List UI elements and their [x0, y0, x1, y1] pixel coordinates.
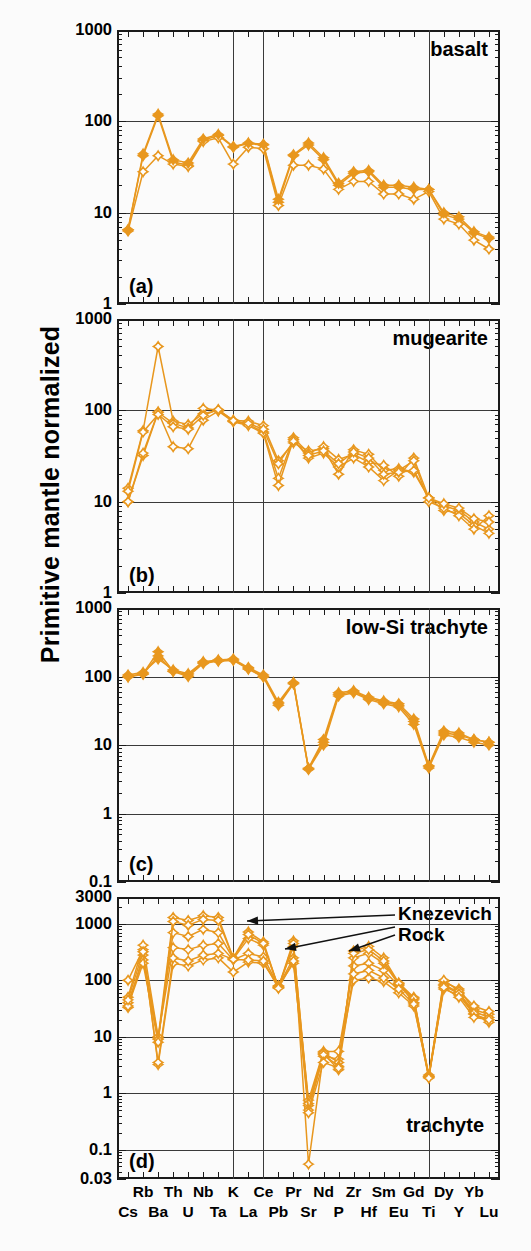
open-diamond-marker — [274, 481, 283, 490]
x-label-pr: Pr — [285, 1183, 301, 1201]
x-label-ba: Ba — [148, 1203, 168, 1221]
open-diamond-marker — [184, 444, 193, 453]
filled-diamond-marker — [123, 225, 132, 234]
y-major-tick — [117, 882, 126, 883]
y-tick-label: 3000 — [75, 887, 112, 906]
series-line — [128, 408, 489, 533]
x-label-ta: Ta — [210, 1203, 227, 1221]
series-line — [128, 138, 489, 249]
filled-diamond-marker — [304, 765, 313, 774]
y-tick-label: 10 — [94, 492, 112, 511]
x-label-u: U — [183, 1203, 194, 1221]
open-diamond-marker — [169, 442, 178, 451]
y-major-tick — [491, 882, 500, 883]
y-tick-label: 1000 — [75, 598, 112, 617]
x-label-ti: Ti — [422, 1203, 436, 1221]
series-line — [128, 659, 489, 768]
y-tick-label: 10 — [94, 1027, 112, 1046]
open-diamond-marker — [409, 195, 418, 204]
series-layer — [117, 319, 500, 593]
y-tick-label: 100 — [84, 400, 112, 419]
y-major-tick — [491, 593, 500, 594]
x-label-rb: Rb — [133, 1183, 154, 1201]
panel-c-low-si-trachyte: low-Si trachyte (c) 0.11101001000 — [117, 608, 500, 882]
panel-d-trachyte: trachyte (d) Knezevich Rock 0.030.111010… — [117, 897, 500, 1179]
series-layer — [117, 608, 500, 882]
x-label-zr: Zr — [346, 1183, 362, 1201]
x-label-sr: Sr — [300, 1203, 316, 1221]
y-major-tick — [117, 593, 126, 594]
annotation-arrows — [117, 897, 500, 1179]
y-tick-label: 1000 — [75, 20, 112, 39]
panel-a-basalt: basalt (a) 1101001000 — [117, 30, 500, 304]
annotation-arrow-head-1 — [247, 916, 258, 924]
open-diamond-marker — [484, 244, 493, 253]
x-label-y: Y — [454, 1203, 464, 1221]
spider-diagram-figure: Primitive mantle normalized basalt (a) 1… — [0, 0, 531, 1251]
open-diamond-marker — [154, 342, 163, 351]
y-tick-label: 0.1 — [89, 1140, 112, 1159]
open-diamond-marker — [123, 497, 132, 506]
series-line — [128, 114, 489, 237]
y-tick-label: 100 — [84, 970, 112, 989]
annotation-arrow-line-1 — [247, 915, 395, 921]
x-label-th: Th — [164, 1183, 183, 1201]
annotation-arrow-line-2 — [285, 927, 395, 949]
open-diamond-marker — [304, 161, 313, 170]
x-label-pb: Pb — [269, 1203, 289, 1221]
annotation-arrow-head-2 — [285, 943, 297, 951]
x-label-nb: Nb — [193, 1183, 214, 1201]
x-label-k: K — [228, 1183, 239, 1201]
y-tick-label: 10 — [94, 203, 112, 222]
y-tick-label: 10 — [94, 735, 112, 754]
y-tick-label: 1 — [103, 1083, 112, 1102]
y-tick-label: 1000 — [75, 309, 112, 328]
x-axis-element-labels: CsRbBaThUNbTaKLaCePbPrSrNdPZrHfSmEuGdTiD… — [0, 1183, 531, 1233]
y-axis-title: Primitive mantle normalized — [36, 255, 65, 735]
y-minor-tick — [495, 1179, 500, 1180]
x-label-yb: Yb — [464, 1183, 484, 1201]
filled-diamond-marker — [229, 656, 238, 665]
x-label-hf: Hf — [360, 1203, 376, 1221]
x-label-la: La — [239, 1203, 257, 1221]
annotation-arrow-head-3 — [349, 943, 361, 951]
panel-b-mugearite: mugearite (b) 1101001000 — [117, 319, 500, 593]
y-tick-label: 100 — [84, 111, 112, 130]
series-layer — [117, 30, 500, 304]
y-tick-label: 1000 — [75, 914, 112, 933]
filled-diamond-marker — [214, 656, 223, 665]
x-label-ce: Ce — [253, 1183, 273, 1201]
y-major-tick — [491, 304, 500, 305]
x-label-nd: Nd — [313, 1183, 334, 1201]
y-minor-tick — [117, 1179, 122, 1180]
x-label-dy: Dy — [434, 1183, 454, 1201]
series-line — [128, 116, 489, 239]
x-label-p: P — [333, 1203, 343, 1221]
y-tick-label: 1 — [103, 804, 112, 823]
x-label-eu: Eu — [389, 1203, 409, 1221]
x-label-lu: Lu — [479, 1203, 498, 1221]
x-label-cs: Cs — [118, 1203, 138, 1221]
y-tick-label: 100 — [84, 667, 112, 686]
x-label-sm: Sm — [372, 1183, 396, 1201]
x-label-gd: Gd — [403, 1183, 425, 1201]
y-major-tick — [117, 304, 126, 305]
